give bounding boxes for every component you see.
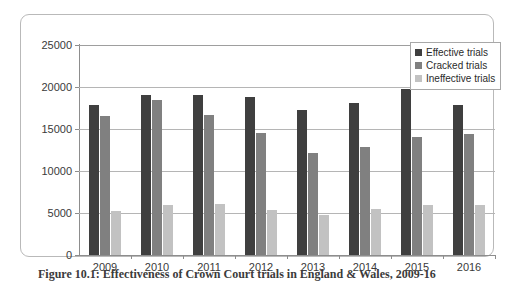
x-tick-mark <box>183 255 184 259</box>
y-axis-label: 25000 <box>41 40 72 51</box>
y-axis-label: 15000 <box>41 124 72 135</box>
y-tick-mark <box>75 87 79 88</box>
bar <box>141 95 151 255</box>
y-tick-mark <box>75 45 79 46</box>
bar <box>319 215 329 255</box>
bar <box>245 97 255 255</box>
bar <box>401 89 411 255</box>
bar <box>152 100 162 255</box>
bar <box>360 147 370 255</box>
y-tick-mark <box>75 171 79 172</box>
y-tick-mark <box>75 213 79 214</box>
legend-swatch-icon <box>415 62 422 69</box>
bar <box>267 210 277 255</box>
bar <box>297 110 307 255</box>
x-tick-mark <box>443 255 444 259</box>
legend-swatch-icon <box>415 49 422 56</box>
x-tick-mark <box>391 255 392 259</box>
x-tick-mark <box>339 255 340 259</box>
legend-label: Ineffective trials <box>426 73 495 84</box>
figure-caption: Figure 10.1: Effectiveness of Crown Cour… <box>38 268 468 281</box>
bar <box>100 116 110 255</box>
bar <box>215 204 225 255</box>
legend-item: Ineffective trials <box>415 72 495 85</box>
y-tick-mark <box>75 129 79 130</box>
bar <box>163 205 173 255</box>
bar <box>371 209 381 255</box>
bar <box>256 133 266 255</box>
bar <box>423 205 433 255</box>
bar <box>89 105 99 255</box>
bar <box>464 134 474 255</box>
legend-item: Cracked trials <box>415 59 495 72</box>
bar <box>204 115 214 255</box>
y-axis-label: 10000 <box>41 166 72 177</box>
bar <box>349 103 359 255</box>
bar <box>412 137 422 255</box>
y-tick-mark <box>75 255 79 256</box>
x-tick-mark <box>131 255 132 259</box>
legend-item: Effective trials <box>415 46 495 59</box>
legend-label: Cracked trials <box>426 60 487 71</box>
legend-swatch-icon <box>415 75 422 82</box>
bar <box>475 205 485 255</box>
bar <box>111 211 121 255</box>
y-axis-label: 20000 <box>41 82 72 93</box>
bar <box>308 153 318 255</box>
x-tick-mark <box>287 255 288 259</box>
x-tick-mark <box>495 255 496 259</box>
chart-legend: Effective trialsCracked trialsIneffectiv… <box>410 42 501 90</box>
bar <box>193 95 203 255</box>
legend-label: Effective trials <box>426 47 488 58</box>
chart-frame: 0500010000150002000025000 20092010201120… <box>20 14 494 257</box>
bar <box>453 105 463 255</box>
y-axis-label: 5000 <box>48 208 72 219</box>
figure-container: 0500010000150002000025000 20092010201120… <box>0 0 516 282</box>
x-tick-mark <box>235 255 236 259</box>
y-axis-label: 0 <box>66 250 72 261</box>
